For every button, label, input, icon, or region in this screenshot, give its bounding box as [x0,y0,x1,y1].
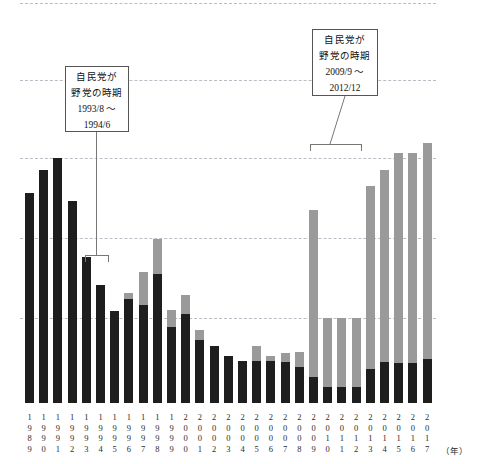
bar-segment-dark [352,387,361,403]
bar-segment-gray [309,210,318,377]
callout1-line2: 野党の時期 [66,85,128,101]
bar-1992 [68,201,77,403]
bar-1997 [139,272,148,403]
bar-segment-gray [167,310,176,327]
x-label-1992: 1992 [66,412,78,454]
bar-segment-dark [224,356,233,403]
callout2-line1: 自民党が [313,32,377,48]
bar-1989 [25,193,34,403]
bar-segment-dark [394,363,403,403]
x-label-1997: 1997 [137,412,149,454]
bar-1999 [167,310,176,403]
callout2-line3: 2009/9 ～ [313,64,377,80]
bar-segment-dark [39,170,48,403]
bar-1996 [124,293,133,403]
bar-segment-dark [25,193,34,403]
x-label-1995: 1995 [109,412,121,454]
bar-segment-gray [139,272,148,305]
x-label-2010: 2010 [322,412,334,454]
bar-segment-dark [82,257,91,403]
x-label-2013: 2013 [364,412,376,454]
bar-2004 [238,361,247,403]
bar-segment-dark [139,305,148,403]
x-label-2017: 2017 [421,412,433,454]
bracket-1993 [85,255,109,262]
callout1-line1: 自民党が [66,69,128,85]
x-label-1998: 1998 [151,412,163,454]
bar-2016 [408,153,417,403]
x-axis-labels: 1989199019911992199319941995199619971998… [0,406,480,464]
bar-2013 [366,186,375,403]
plot-area [0,0,480,410]
bar-2002 [210,347,219,403]
bar-segment-dark [110,311,119,403]
bar-segment-gray [352,318,361,387]
x-label-2011: 2011 [336,412,348,454]
x-label-1994: 1994 [95,412,107,454]
x-label-2015: 2015 [393,412,405,454]
x-label-1996: 1996 [123,412,135,454]
bar-segment-dark [68,201,77,403]
bar-2007 [281,353,290,403]
bar-segment-dark [323,387,332,403]
x-label-2005: 2005 [251,412,263,454]
bar-segment-dark [281,362,290,403]
bar-segment-dark [124,299,133,403]
bar-segment-dark [408,363,417,403]
x-label-2009: 2009 [308,412,320,454]
bar-segment-gray [394,153,403,363]
bar-2011 [337,318,346,403]
x-label-1990: 1990 [38,412,50,454]
callout2-line2: 野党の時期 [313,48,377,64]
bar-1994 [96,285,105,403]
x-label-2001: 2001 [194,412,206,454]
bar-2015 [394,153,403,403]
bar-segment-gray [153,239,162,274]
x-label-2008: 2008 [293,412,305,454]
x-label-1999: 1999 [166,412,178,454]
x-label-2004: 2004 [237,412,249,454]
bar-segment-dark [380,362,389,403]
bar-segment-gray [366,186,375,369]
leader-line-1993 [96,132,97,255]
bar-segment-gray [181,295,190,314]
x-label-2007: 2007 [279,412,291,454]
bar-segment-dark [167,327,176,403]
bar-2006 [266,356,275,403]
bar-segment-gray [337,318,346,387]
bar-segment-gray [423,143,432,359]
x-label-2003: 2003 [222,412,234,454]
callout2-line4: 2012/12 [313,80,377,96]
chart-root: 自民党が 野党の時期 1993/8 ～ 1994/6 自民党が 野党の時期 20… [0,0,480,464]
bar-2010 [323,318,332,403]
x-label-2002: 2002 [208,412,220,454]
bar-2005 [252,346,261,403]
bar-segment-dark [210,346,219,403]
bar-segment-dark [366,369,375,403]
bar-segment-dark [423,359,432,403]
bar-1993 [82,257,91,403]
x-label-2016: 2016 [407,412,419,454]
callout1-line3: 1993/8 ～ [66,101,128,117]
bar-1990 [39,170,48,403]
bar-2009 [309,210,318,403]
bar-segment-gray [323,318,332,387]
callout-ldp-opposition-2009: 自民党が 野党の時期 2009/9 ～ 2012/12 [312,29,378,96]
bar-segment-gray [252,346,261,361]
bar-segment-dark [295,367,304,403]
bar-segment-gray [408,153,417,363]
bar-segment-gray [380,170,389,362]
bar-2017 [423,143,432,403]
bar-segment-dark [195,340,204,403]
x-label-2000: 2000 [180,412,192,454]
x-label-1993: 1993 [80,412,92,454]
bar-2001 [195,330,204,403]
bar-segment-dark [96,285,105,403]
bar-1991 [53,158,62,403]
bar-segment-dark [266,361,275,403]
leader-line-2009 [326,94,349,146]
bar-1998 [153,239,162,403]
bar-1995 [110,311,119,403]
x-label-2012: 2012 [350,412,362,454]
bar-segment-gray [295,352,304,367]
